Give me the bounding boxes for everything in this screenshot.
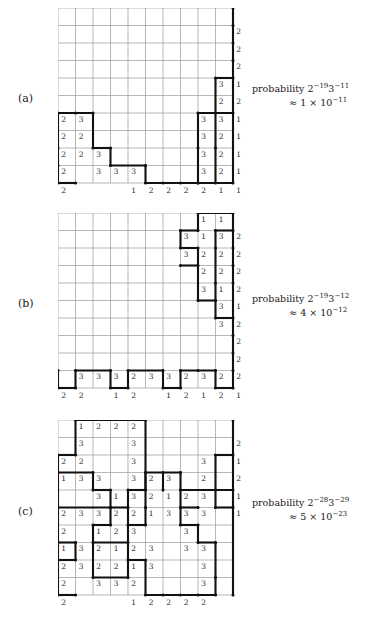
svg-text:2: 2 xyxy=(236,320,241,329)
svg-text:1: 1 xyxy=(166,391,171,400)
svg-text:2: 2 xyxy=(114,527,119,536)
probability-approx-exp-c: −23 xyxy=(332,510,347,518)
svg-text:2: 2 xyxy=(236,474,241,483)
probability-approx-text-b: ≈ 4 × 10 xyxy=(289,307,332,318)
grid-c: 1222332233133323231321232332213332123313… xyxy=(58,420,249,611)
svg-text:2: 2 xyxy=(131,544,136,553)
svg-text:2: 2 xyxy=(236,372,241,381)
svg-text:3: 3 xyxy=(79,509,84,518)
svg-text:1: 1 xyxy=(236,167,241,176)
probability-exp1-b: −19 xyxy=(314,292,329,300)
svg-text:2: 2 xyxy=(201,474,206,483)
svg-text:2: 2 xyxy=(61,186,66,195)
svg-text:3: 3 xyxy=(201,509,206,518)
svg-text:2: 2 xyxy=(219,167,224,176)
probability-label-c: probability 2−283−29≈ 5 × 10−23 xyxy=(252,496,349,524)
svg-text:3: 3 xyxy=(79,439,84,448)
svg-text:2: 2 xyxy=(219,132,224,141)
svg-text:3: 3 xyxy=(201,562,206,571)
svg-text:2: 2 xyxy=(96,544,101,553)
svg-text:2: 2 xyxy=(201,598,206,607)
probability-approx-b: ≈ 4 × 10−12 xyxy=(252,306,349,320)
svg-text:1: 1 xyxy=(131,186,136,195)
svg-text:2: 2 xyxy=(79,391,84,400)
svg-text:3: 3 xyxy=(79,115,84,124)
svg-text:2: 2 xyxy=(184,492,189,501)
svg-text:3: 3 xyxy=(149,372,154,381)
svg-text:2: 2 xyxy=(236,232,241,241)
svg-text:2: 2 xyxy=(149,598,154,607)
probability-exp1-a: −19 xyxy=(314,82,329,90)
svg-text:3: 3 xyxy=(114,372,119,381)
svg-text:1: 1 xyxy=(219,285,224,294)
svg-text:1: 1 xyxy=(219,186,224,195)
svg-text:3: 3 xyxy=(201,579,206,588)
svg-text:2: 2 xyxy=(79,457,84,466)
probability-prefix-c: probability 2 xyxy=(252,497,314,508)
svg-text:2: 2 xyxy=(184,372,189,381)
probability-label-a: probability 2−193−11≈ 1 × 10−11 xyxy=(252,82,349,110)
svg-text:3: 3 xyxy=(219,232,224,241)
lattice-path-figure: (a)3223332232223322333322122221122212111… xyxy=(0,0,390,622)
svg-text:3: 3 xyxy=(219,115,224,124)
svg-text:2: 2 xyxy=(131,422,136,431)
svg-text:3: 3 xyxy=(96,492,101,501)
svg-text:2: 2 xyxy=(166,186,171,195)
svg-text:1: 1 xyxy=(236,302,241,311)
svg-text:3: 3 xyxy=(201,115,206,124)
svg-text:2: 2 xyxy=(131,372,136,381)
svg-text:2: 2 xyxy=(201,250,206,259)
svg-text:3: 3 xyxy=(166,372,171,381)
svg-text:3: 3 xyxy=(79,544,84,553)
svg-text:1: 1 xyxy=(236,80,241,89)
svg-text:3: 3 xyxy=(201,150,206,159)
svg-text:2: 2 xyxy=(219,150,224,159)
svg-text:3: 3 xyxy=(114,579,119,588)
svg-text:2: 2 xyxy=(236,337,241,346)
svg-text:2: 2 xyxy=(131,579,136,588)
svg-text:3: 3 xyxy=(149,544,154,553)
svg-text:1: 1 xyxy=(236,132,241,141)
svg-text:2: 2 xyxy=(96,562,101,571)
svg-text:2: 2 xyxy=(219,250,224,259)
probability-prefix-a: probability 2 xyxy=(252,83,314,94)
svg-text:2: 2 xyxy=(236,250,241,259)
probability-exact-b: probability 2−193−12 xyxy=(252,292,349,306)
svg-text:2: 2 xyxy=(236,45,241,54)
svg-text:2: 2 xyxy=(131,391,136,400)
svg-text:2: 2 xyxy=(61,598,66,607)
probability-exp2-a: −11 xyxy=(334,82,349,90)
probability-exact-c: probability 2−283−29 xyxy=(252,496,349,510)
svg-text:1: 1 xyxy=(201,391,206,400)
svg-text:2: 2 xyxy=(79,150,84,159)
svg-text:2: 2 xyxy=(236,27,241,36)
svg-text:2: 2 xyxy=(184,598,189,607)
svg-text:3: 3 xyxy=(166,509,171,518)
svg-text:2: 2 xyxy=(96,422,101,431)
grid-b: 1131332222313323332332322121212122221222… xyxy=(58,213,249,404)
svg-text:1: 1 xyxy=(236,150,241,159)
svg-text:1: 1 xyxy=(131,562,136,571)
svg-text:3: 3 xyxy=(131,474,136,483)
svg-text:3: 3 xyxy=(184,250,189,259)
svg-text:3: 3 xyxy=(96,167,101,176)
svg-text:2: 2 xyxy=(201,186,206,195)
svg-text:3: 3 xyxy=(201,492,206,501)
svg-text:3: 3 xyxy=(131,167,136,176)
svg-text:3: 3 xyxy=(201,544,206,553)
svg-text:2: 2 xyxy=(236,267,241,276)
svg-text:1: 1 xyxy=(79,422,84,431)
probability-approx-exp-a: −11 xyxy=(332,96,347,104)
probability-prefix-b: probability 2 xyxy=(252,293,314,304)
svg-text:3: 3 xyxy=(131,527,136,536)
svg-text:3: 3 xyxy=(131,439,136,448)
svg-text:2: 2 xyxy=(236,62,241,71)
svg-text:2: 2 xyxy=(184,186,189,195)
svg-text:2: 2 xyxy=(61,579,66,588)
svg-text:1: 1 xyxy=(131,598,136,607)
probability-exp2-b: −12 xyxy=(334,292,349,300)
svg-text:3: 3 xyxy=(219,320,224,329)
svg-text:2: 2 xyxy=(219,391,224,400)
svg-text:2: 2 xyxy=(184,391,189,400)
svg-text:3: 3 xyxy=(201,285,206,294)
